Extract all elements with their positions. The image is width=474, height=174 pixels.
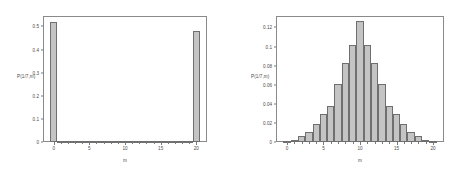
x-tick-mark <box>196 142 197 145</box>
y-tick-label: 0.12 <box>263 25 272 30</box>
x-tick-mark <box>61 142 62 144</box>
x-tick-mark <box>389 142 390 144</box>
y-tick-mark <box>41 118 44 119</box>
x-tick-label: 0 <box>286 146 289 151</box>
plot-frame-right <box>276 16 444 142</box>
x-tick-mark <box>426 142 427 144</box>
x-tick-label: 15 <box>158 146 163 151</box>
x-tick-mark <box>68 142 69 144</box>
x-tick-label: 20 <box>194 146 199 151</box>
y-tick-mark <box>274 103 277 104</box>
x-tick-label: 10 <box>122 146 127 151</box>
y-tick-label: 0.02 <box>263 120 272 125</box>
chart-panel-left: P(1/7,m) m 00.10.20.30.40.505101520 <box>0 0 237 174</box>
y-tick-label: 0 <box>269 140 272 145</box>
x-tick-mark <box>54 142 55 145</box>
x-tick-mark <box>433 142 434 145</box>
x-tick-mark <box>139 142 140 144</box>
y-tick-mark <box>41 26 44 27</box>
y-axis-label-right: P(1/7,m) <box>251 74 269 79</box>
x-tick-label: 0 <box>52 146 55 151</box>
x-tick-label: 15 <box>394 146 399 151</box>
x-tick-mark <box>154 142 155 144</box>
x-tick-mark <box>89 142 90 145</box>
x-tick-mark <box>353 142 354 144</box>
x-axis-label-right: m <box>340 158 380 163</box>
figure-row: P(1/7,m) m 00.10.20.30.40.505101520 P(1/… <box>0 0 474 174</box>
x-tick-mark <box>161 142 162 145</box>
x-tick-mark <box>338 142 339 144</box>
y-tick-mark <box>274 84 277 85</box>
y-tick-mark <box>41 72 44 73</box>
y-tick-label: 0.04 <box>263 101 272 106</box>
y-tick-label: 0.3 <box>33 70 39 75</box>
x-tick-mark <box>316 142 317 144</box>
x-tick-mark <box>287 142 288 145</box>
x-tick-mark <box>302 142 303 144</box>
y-tick-label: 0 <box>36 140 39 145</box>
y-tick-mark <box>274 46 277 47</box>
x-tick-mark <box>375 142 376 144</box>
x-tick-mark <box>168 142 169 144</box>
plot-frame-left <box>43 16 207 142</box>
x-tick-mark <box>418 142 419 144</box>
x-tick-label: 20 <box>430 146 435 151</box>
x-tick-mark <box>82 142 83 144</box>
x-tick-label: 5 <box>88 146 91 151</box>
x-tick-mark <box>382 142 383 144</box>
chart-panel-right: P(1/7,m) m 00.020.040.060.080.10.1205101… <box>237 0 474 174</box>
y-tick-mark <box>274 142 277 143</box>
y-tick-label: 0.06 <box>263 82 272 87</box>
x-tick-mark <box>411 142 412 144</box>
x-axis-label-left: m <box>105 158 145 163</box>
y-tick-label: 0.2 <box>33 93 39 98</box>
y-tick-label: 0.5 <box>33 24 39 29</box>
y-tick-mark <box>274 27 277 28</box>
y-tick-label: 0.08 <box>263 63 272 68</box>
x-tick-mark <box>96 142 97 144</box>
y-tick-mark <box>274 122 277 123</box>
x-tick-mark <box>75 142 76 144</box>
x-tick-mark <box>331 142 332 144</box>
x-tick-mark <box>111 142 112 144</box>
x-tick-mark <box>104 142 105 144</box>
x-tick-label: 5 <box>322 146 325 151</box>
x-tick-mark <box>132 142 133 144</box>
x-tick-mark <box>397 142 398 145</box>
x-tick-mark <box>189 142 190 144</box>
x-tick-mark <box>323 142 324 145</box>
x-tick-mark <box>182 142 183 144</box>
x-tick-mark <box>367 142 368 144</box>
x-tick-mark <box>125 142 126 145</box>
x-tick-mark <box>146 142 147 144</box>
y-tick-mark <box>41 49 44 50</box>
y-tick-label: 0.1 <box>33 116 39 121</box>
x-tick-mark <box>118 142 119 144</box>
y-tick-mark <box>41 95 44 96</box>
y-tick-mark <box>41 142 44 143</box>
y-tick-label: 0.1 <box>266 44 272 49</box>
y-tick-mark <box>274 65 277 66</box>
x-tick-mark <box>175 142 176 144</box>
x-tick-label: 10 <box>357 146 362 151</box>
x-tick-mark <box>404 142 405 144</box>
x-tick-mark <box>294 142 295 144</box>
x-tick-mark <box>345 142 346 144</box>
x-tick-mark <box>309 142 310 144</box>
x-tick-mark <box>360 142 361 145</box>
y-tick-label: 0.4 <box>33 47 39 52</box>
